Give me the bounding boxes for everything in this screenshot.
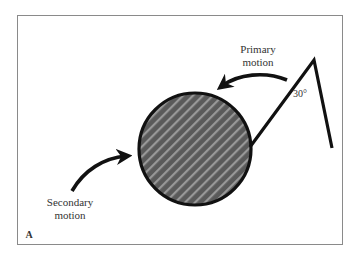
secondary-label-line2: motion [54, 209, 86, 221]
primary-label-line1: Primary [240, 43, 276, 55]
angle-label: 30° [293, 88, 307, 99]
ball [139, 93, 251, 205]
secondary-label-line1: Secondary [47, 196, 94, 208]
panel-label: A [25, 229, 33, 240]
primary-motion-arrow [222, 75, 287, 86]
motion-diagram: Primary motion 30° Secondary motion A [0, 0, 361, 259]
secondary-motion-arrow [72, 156, 126, 191]
primary-label-line2: motion [242, 56, 274, 68]
